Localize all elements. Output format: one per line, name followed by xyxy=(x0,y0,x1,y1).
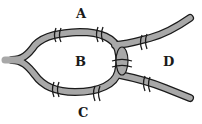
label-b: B xyxy=(75,55,86,68)
label-c: C xyxy=(78,106,88,119)
label-a: A xyxy=(76,7,86,20)
label-d: D xyxy=(163,55,174,68)
